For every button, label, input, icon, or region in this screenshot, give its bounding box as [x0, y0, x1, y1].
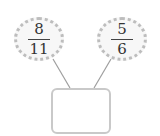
left-connector [53, 59, 70, 88]
right-numerator: 5 [117, 22, 127, 37]
right-connector [94, 59, 111, 88]
answer-box[interactable] [51, 88, 111, 134]
right-fraction-bubble: 5 6 [97, 17, 147, 61]
left-fraction-bubble: 8 11 [14, 17, 64, 61]
left-numerator: 8 [34, 22, 44, 37]
right-denominator: 6 [117, 42, 127, 57]
left-denominator: 11 [29, 42, 48, 57]
